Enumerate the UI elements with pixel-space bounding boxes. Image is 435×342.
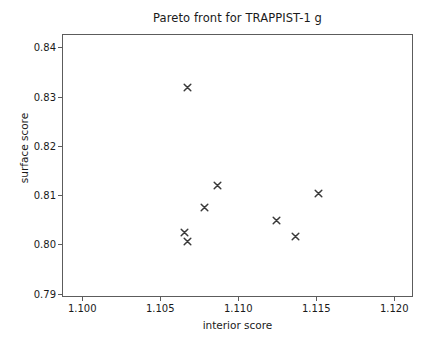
x-axis-tick bbox=[82, 297, 83, 301]
y-axis-tick-label: 0.82 bbox=[34, 140, 56, 151]
data-point bbox=[180, 228, 189, 237]
x-axis-tick bbox=[160, 297, 161, 301]
x-axis-tick-label: 1.120 bbox=[380, 303, 409, 314]
y-axis-tick-label: 0.84 bbox=[34, 42, 56, 53]
data-point bbox=[291, 232, 300, 241]
y-axis-tick-label: 0.79 bbox=[34, 288, 56, 299]
y-axis-tick bbox=[58, 97, 62, 98]
y-axis-tick bbox=[58, 244, 62, 245]
y-axis-tick-label: 0.80 bbox=[34, 239, 56, 250]
x-axis-tick-label: 1.100 bbox=[68, 303, 97, 314]
chart-title: Pareto front for TRAPPIST-1 g bbox=[62, 11, 413, 25]
y-axis-tick bbox=[58, 47, 62, 48]
data-point bbox=[272, 216, 281, 225]
data-point bbox=[213, 181, 222, 190]
y-axis-tick-label: 0.81 bbox=[34, 190, 56, 201]
y-axis-label: surface score bbox=[18, 88, 30, 208]
data-point bbox=[183, 83, 192, 92]
data-point bbox=[200, 203, 209, 212]
figure-canvas: Pareto front for TRAPPIST-1 g 1.1001.105… bbox=[0, 0, 435, 342]
y-axis-tick-label: 0.83 bbox=[34, 91, 56, 102]
x-axis-tick-label: 1.115 bbox=[302, 303, 331, 314]
x-axis-label: interior score bbox=[62, 319, 413, 331]
y-axis-tick bbox=[58, 146, 62, 147]
x-axis-tick bbox=[394, 297, 395, 301]
data-point bbox=[183, 237, 192, 246]
plot-area bbox=[62, 34, 413, 297]
x-axis-tick-label: 1.105 bbox=[146, 303, 175, 314]
x-axis-tick bbox=[316, 297, 317, 301]
x-axis-tick-label: 1.110 bbox=[224, 303, 253, 314]
x-axis-tick bbox=[238, 297, 239, 301]
y-axis-tick bbox=[58, 294, 62, 295]
data-point bbox=[314, 189, 323, 198]
y-axis-tick bbox=[58, 195, 62, 196]
